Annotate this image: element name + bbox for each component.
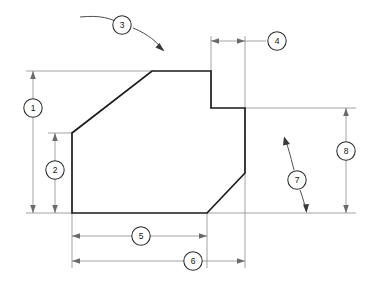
dimension-6 [72, 258, 245, 264]
dimension-lines [30, 38, 349, 264]
part-outline [72, 71, 245, 213]
balloon-1-label: 1 [31, 103, 36, 113]
dimension-1-arrow-bottom [30, 205, 36, 213]
balloon-4[interactable]: 4 [268, 32, 286, 50]
balloon-2-label: 2 [53, 165, 58, 175]
balloon-2[interactable]: 2 [46, 161, 64, 179]
dimension-6-arrow-left [72, 258, 80, 264]
dimension-2-arrow-bottom [52, 205, 58, 213]
dimension-5-arrow-right [199, 233, 207, 239]
dimension-4-arrow-right [237, 38, 245, 44]
balloon-callouts: 1 2 3 4 5 6 7 8 [24, 16, 355, 270]
balloon-3-label: 3 [120, 20, 125, 30]
balloon-5-label: 5 [139, 231, 144, 241]
dimension-8-arrow-bottom [343, 205, 349, 213]
balloon-4-label: 4 [275, 36, 280, 46]
balloon-3[interactable]: 3 [113, 16, 131, 34]
dimension-1-arrow-top [30, 71, 36, 79]
dimension-6-arrow-right [237, 258, 245, 264]
dimension-4-arrow-left [211, 38, 219, 44]
dimension-2-arrow-top [52, 133, 58, 141]
balloon-5[interactable]: 5 [132, 227, 150, 245]
dimension-4 [211, 38, 266, 44]
balloon-1[interactable]: 1 [24, 99, 42, 117]
dimension-1 [30, 71, 36, 213]
leader-3-arrowhead [156, 43, 165, 52]
balloon-6-label: 6 [191, 256, 196, 266]
balloon-6[interactable]: 6 [184, 252, 202, 270]
balloon-7-label: 7 [295, 175, 300, 185]
dimension-5-arrow-left [72, 233, 80, 239]
balloon-8-label: 8 [344, 146, 349, 156]
leader-7-arrowhead-lower [303, 204, 309, 213]
balloon-8[interactable]: 8 [337, 142, 355, 160]
balloon-7[interactable]: 7 [288, 171, 306, 189]
leader-7-arrowhead-upper [283, 137, 290, 146]
dimension-8-arrow-top [343, 108, 349, 116]
technical-drawing-canvas: Dimensioned part outline with numbered c… [0, 0, 373, 285]
